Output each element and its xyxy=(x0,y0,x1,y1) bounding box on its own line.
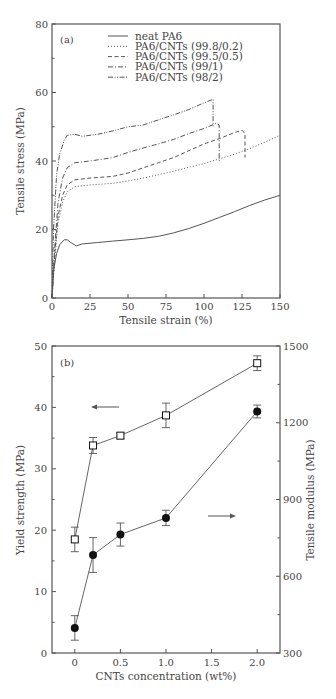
open-square-marker xyxy=(117,432,124,439)
left-y-tick-label: 50 xyxy=(34,341,47,352)
open-square-marker xyxy=(71,536,78,543)
left-y-tick-label: 40 xyxy=(34,402,47,413)
left-y-tick-label: 0 xyxy=(41,648,47,659)
filled-circle-marker xyxy=(71,624,79,632)
right-y-tick-label: 600 xyxy=(283,571,302,582)
left-y-tick-label: 10 xyxy=(34,586,47,597)
open-square-marker xyxy=(163,412,170,419)
right-y-tick-label: 300 xyxy=(283,648,302,659)
x-tick-label: 0.5 xyxy=(112,657,128,668)
chart-b-left-axis-label: Yield strength (MPa) xyxy=(14,445,26,556)
filled-circle-marker xyxy=(89,551,97,559)
filled-circle-marker xyxy=(253,407,261,415)
right-arrow-icon xyxy=(208,514,236,519)
chart-b-series xyxy=(71,356,261,640)
chart-b-frame: 00.51.01.52.0010203040503006009001200150… xyxy=(34,341,308,669)
left-y-tick-label: 20 xyxy=(34,525,47,536)
chart-b-x-axis-label: CNTs concentration (wt%) xyxy=(96,670,237,682)
filled-circle-marker xyxy=(162,514,170,522)
x-tick-label: 1.0 xyxy=(158,657,174,668)
open-square-marker xyxy=(90,442,97,449)
left-y-tick-label: 30 xyxy=(34,463,47,474)
x-tick-label: 0 xyxy=(72,657,78,668)
right-y-tick-label: 900 xyxy=(283,494,302,505)
panel-label-b: (b) xyxy=(60,357,74,368)
x-tick-label: 1.5 xyxy=(204,657,220,668)
chart-b-right-axis-label: Tensile modulus (MPa) xyxy=(304,439,316,560)
filled-circle-marker xyxy=(116,531,124,539)
right-y-tick-label: 1200 xyxy=(283,417,308,428)
plot-area-frame xyxy=(52,346,280,653)
x-tick-label: 2.0 xyxy=(249,657,265,668)
left-arrow-icon xyxy=(91,405,119,410)
yield-modulus-chart: 00.51.01.52.0010203040503006009001200150… xyxy=(0,0,336,699)
open-square-marker xyxy=(254,360,261,367)
right-y-tick-label: 1500 xyxy=(283,341,308,352)
